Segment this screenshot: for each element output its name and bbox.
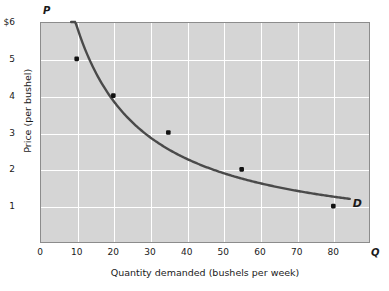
plot-area [40,22,370,243]
x-tick-label: 70 [282,248,312,257]
gridline-vertical [188,23,189,242]
demand-curve-label: D [353,198,362,209]
x-axis-title: Quantity demanded (bushels per week) [40,268,370,278]
x-tick-label: 50 [208,248,238,257]
x-tick-label: 80 [318,248,348,257]
x-tick-label: 10 [62,248,92,257]
y-axis-symbol: P [43,6,50,16]
x-tick-label: 60 [245,248,275,257]
gridline-vertical [114,23,115,242]
gridline-vertical [78,23,79,242]
y-tick-label: 4 [0,92,15,101]
gridline-horizontal [41,207,369,208]
y-tick-label: 5 [0,55,15,64]
y-tick-label: $6 [0,18,15,27]
gridline-horizontal [41,170,369,171]
gridline-vertical [261,23,262,242]
x-tick-label: 0 [25,248,55,257]
x-tick-label: 40 [172,248,202,257]
gridline-horizontal [41,60,369,61]
y-tick-label: 1 [0,202,15,211]
gridline-vertical [151,23,152,242]
y-axis-title: Price (per bushel) [23,31,33,191]
gridline-horizontal [41,97,369,98]
x-axis-symbol: Q [371,248,380,258]
x-tick-label: 30 [135,248,165,257]
y-tick-label: 2 [0,165,15,174]
gridline-vertical [298,23,299,242]
gridline-vertical [334,23,335,242]
gridline-horizontal [41,134,369,135]
x-tick-label: 20 [98,248,128,257]
y-tick-label: 3 [0,129,15,138]
demand-curve-figure: P Q 12345$6 01020304050607080 Price (per… [0,0,389,291]
gridline-vertical [224,23,225,242]
